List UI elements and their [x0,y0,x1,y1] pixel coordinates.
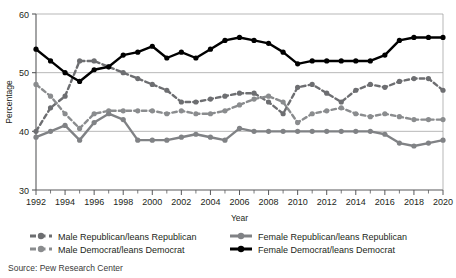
point-male_dem-1993 [48,94,53,99]
point-male_dem-2008 [266,94,271,99]
legend-swatch-marker-0 [38,233,44,239]
point-female_rep-2015 [368,129,373,134]
point-male_dem-2018 [411,117,416,122]
point-female_dem-2012 [324,58,329,63]
point-male_rep-1999 [135,76,140,81]
point-male_rep-2003 [193,99,198,104]
point-male_rep-2004 [208,96,213,101]
point-female_rep-2012 [324,129,329,134]
point-female_dem-2007 [251,38,256,43]
point-male_dem-2016 [382,111,387,116]
point-female_dem-2015 [368,58,373,63]
point-male_dem-1992 [33,82,38,87]
x-tick-label-2018: 2018 [404,197,424,207]
point-female_rep-2014 [353,129,358,134]
y-tick-label-30: 30 [19,186,29,196]
point-male_dem-2001 [164,111,169,116]
point-male_dem-1995 [77,126,82,131]
point-female_rep-1998 [121,117,126,122]
x-tick-label-2014: 2014 [346,197,366,207]
point-female_rep-1992 [33,135,38,140]
point-female_rep-2001 [164,138,169,143]
y-tick-label-40: 40 [19,127,29,137]
x-tick-label-1994: 1994 [55,197,75,207]
point-male_dem-2003 [193,111,198,116]
point-female_dem-1995 [77,79,82,84]
point-male_dem-2019 [426,117,431,122]
x-tick-label-2000: 2000 [142,197,162,207]
point-male_rep-2013 [339,99,344,104]
point-female_rep-2009 [281,129,286,134]
point-female_rep-1995 [77,138,82,143]
point-male_dem-1999 [135,108,140,113]
x-tick-label-2010: 2010 [288,197,308,207]
x-tick-label-1996: 1996 [84,197,104,207]
point-male_rep-2000 [150,82,155,87]
y-tick-label-60: 60 [19,10,29,20]
point-male_rep-1996 [92,58,97,63]
point-male_dem-2004 [208,111,213,116]
point-male_rep-1993 [48,105,53,110]
point-female_dem-1992 [33,47,38,52]
legend-label-3: Female Democrat/leans Democrat [258,245,396,255]
point-female_rep-1999 [135,138,140,143]
point-male_rep-2002 [179,99,184,104]
point-male_dem-2011 [310,111,315,116]
point-male_rep-2009 [281,111,286,116]
point-female_dem-2014 [353,58,358,63]
point-male_dem-1996 [92,111,97,116]
point-female_dem-2004 [208,47,213,52]
point-female_rep-1993 [48,129,53,134]
point-female_rep-2006 [237,126,242,131]
point-male_dem-2015 [368,114,373,119]
point-female_rep-2020 [440,138,445,143]
point-male_rep-2012 [324,91,329,96]
point-female_rep-2007 [251,129,256,134]
point-female_rep-2008 [266,129,271,134]
x-tick-label-1992: 1992 [26,197,46,207]
point-female_dem-2006 [237,35,242,40]
point-female_dem-2016 [382,52,387,57]
point-female_rep-1994 [62,123,67,128]
x-tick-label-2012: 2012 [317,197,337,207]
point-male_rep-2014 [353,88,358,93]
point-male_rep-2018 [411,76,416,81]
point-female_rep-2017 [397,140,402,145]
y-tick-label-50: 50 [19,68,29,78]
point-male_dem-2014 [353,111,358,116]
legend-swatch-marker-1 [38,246,44,252]
point-male_rep-1995 [77,58,82,63]
point-female_dem-2009 [281,50,286,55]
legend-swatch-marker-3 [238,246,244,252]
point-female_dem-2017 [397,38,402,43]
point-male_dem-2000 [150,108,155,113]
point-male_dem-2017 [397,114,402,119]
point-male_rep-2010 [295,85,300,90]
point-male_rep-2011 [310,82,315,87]
point-male_rep-2006 [237,91,242,96]
point-female_dem-2002 [179,50,184,55]
point-female_dem-1996 [92,67,97,72]
point-female_dem-2008 [266,41,271,46]
point-female_rep-2019 [426,140,431,145]
point-male_rep-2017 [397,79,402,84]
point-male_rep-1994 [62,94,67,99]
legend-label-1: Male Democrat/leans Democrat [58,245,185,255]
x-tick-label-2016: 2016 [375,197,395,207]
party-id-by-gender-line-chart: 30405060 1992199419961998200020022004200… [0,0,456,278]
source-note: Source: Pew Research Center [8,263,123,273]
point-female_dem-2001 [164,55,169,60]
point-female_dem-2005 [222,38,227,43]
point-male_dem-1998 [121,108,126,113]
point-male_rep-1998 [121,70,126,75]
point-female_dem-2000 [150,44,155,49]
x-tick-label-2008: 2008 [259,197,279,207]
legend-label-2: Female Republican/leans Republican [258,232,407,242]
y-axis-label: Percentage [4,80,14,124]
point-female_dem-2020 [440,35,445,40]
point-female_dem-1998 [121,52,126,57]
x-tick-label-2020: 2020 [433,197,453,207]
point-female_dem-1997 [106,64,111,69]
point-male_dem-2007 [251,96,256,101]
point-female_rep-2003 [193,132,198,137]
